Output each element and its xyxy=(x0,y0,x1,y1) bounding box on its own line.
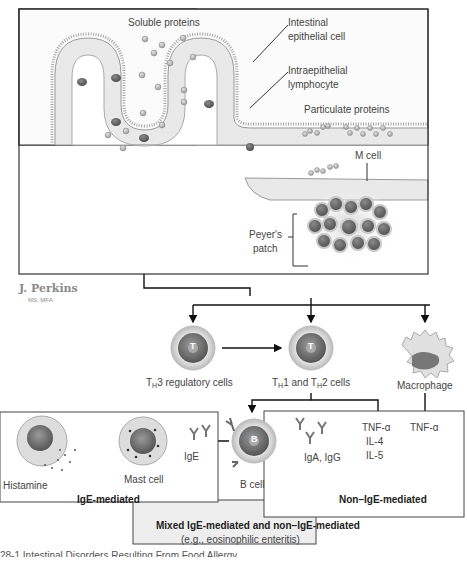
macrophage-cell xyxy=(402,330,454,378)
th12-b: 1 and T xyxy=(283,377,317,388)
label-b-cell: B cell xyxy=(240,479,264,490)
label-non-ige-mediated: Non–IgE-mediated xyxy=(339,494,427,505)
th3-rest: 3 regulatory cells xyxy=(157,377,233,388)
label-macrophage: Macrophage xyxy=(397,380,453,391)
label-th3-regulatory-cells: TH3 regulatory cells xyxy=(146,377,233,389)
cytokine-tnf-th: TNF-α xyxy=(362,422,391,433)
label-iga-igg: IgA, IgG xyxy=(304,452,341,463)
flow-diagram xyxy=(0,0,467,561)
mast-cell xyxy=(119,417,167,465)
th3-glyph: T xyxy=(190,341,196,351)
th12-c: 2 cells xyxy=(322,377,350,388)
label-mixed-title: Mixed IgE-mediated and non–IgE-mediated xyxy=(156,520,360,531)
cytokine-il4: IL-4 xyxy=(366,436,383,447)
cytokine-il5: IL-5 xyxy=(366,450,383,461)
connector-th12-down xyxy=(252,393,311,412)
b-cell-glyph: B xyxy=(251,434,258,444)
label-th1-th2-cells: TH1 and TH2 cells xyxy=(272,377,350,389)
cytokine-tnf-macrophage: TNF-α xyxy=(410,422,439,433)
label-ige: IgE xyxy=(184,451,199,462)
label-mixed-example: (e.g., eosinophilic enteritis) xyxy=(181,534,300,545)
connector-from-panel xyxy=(144,274,250,296)
th12-glyph: T xyxy=(308,341,314,351)
label-histamine: Histamine xyxy=(3,480,47,491)
label-ige-mediated: IgE-mediated xyxy=(77,494,140,505)
label-mast-cell: Mast cell xyxy=(124,474,163,485)
